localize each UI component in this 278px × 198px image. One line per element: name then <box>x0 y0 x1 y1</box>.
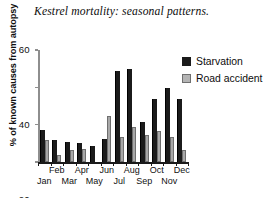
legend-item-starvation: Starvation <box>182 54 262 69</box>
bar-jul-road-accident <box>120 137 124 162</box>
x-label-jul: Jul <box>113 176 125 186</box>
y-tick-label: 60 <box>19 44 30 55</box>
chart-legend: StarvationRoad accident <box>182 54 262 88</box>
bar-nov-road-accident <box>170 137 174 162</box>
x-label-oct: Oct <box>150 165 164 175</box>
x-label-jun: Jun <box>99 165 114 175</box>
x-label-dec: Dec <box>174 165 190 175</box>
chart-screenshot: % of known causes from autopsy Kestrel m… <box>0 0 278 198</box>
x-label-jan: Jan <box>37 176 52 186</box>
bar-jun-road-accident <box>107 116 111 162</box>
x-label-apr: Apr <box>75 165 89 175</box>
bar-apr-road-accident <box>82 149 86 162</box>
chart-title: Kestrel mortality: seasonal patterns. <box>34 5 209 18</box>
bar-may-starvation <box>90 146 95 162</box>
x-label-aug: Aug <box>124 165 140 175</box>
x-label-may: May <box>86 176 103 186</box>
legend-item-road: Road accident <box>182 71 262 86</box>
road-swatch-icon <box>182 74 191 83</box>
x-label-nov: Nov <box>161 176 177 186</box>
y-tick-label: 20 <box>19 193 30 198</box>
bar-jan-road-accident <box>45 140 49 162</box>
bar-oct-road-accident <box>157 131 161 162</box>
bar-feb-road-accident <box>57 155 61 162</box>
plot-area: 0204060 <box>38 50 188 162</box>
x-label-mar: Mar <box>62 176 78 186</box>
x-label-sep: Sep <box>136 176 152 186</box>
bar-sep-road-accident <box>145 135 149 162</box>
bar-aug-road-accident <box>132 127 136 162</box>
x-tick-mark <box>38 162 39 166</box>
y-tick-label: 40 <box>19 119 30 130</box>
starvation-swatch-icon <box>182 57 191 66</box>
legend-label: Starvation <box>196 56 243 67</box>
y-tick-mark: 20 <box>35 124 39 125</box>
legend-label: Road accident <box>196 73 262 84</box>
bar-dec-road-accident <box>182 150 186 162</box>
x-label-feb: Feb <box>49 165 65 175</box>
y-tick-mark: 40 <box>35 87 39 88</box>
y-tick-mark: 60 <box>35 49 39 50</box>
bar-mar-road-accident <box>70 150 74 162</box>
